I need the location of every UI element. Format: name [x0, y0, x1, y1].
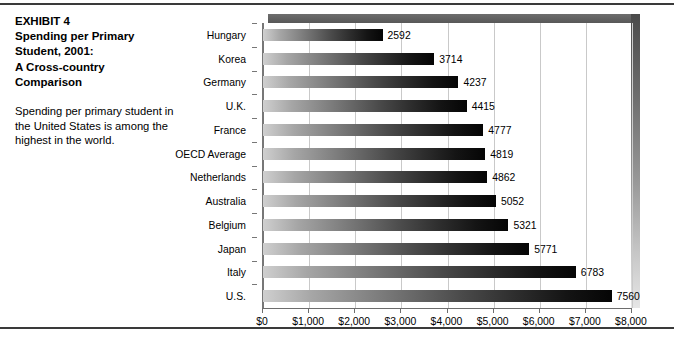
x-tick [354, 308, 355, 313]
bar-netherlands [263, 171, 487, 183]
bar-row: 6783 [263, 266, 631, 278]
plot-area: 2592371442374415477748194862505253215771… [262, 23, 631, 308]
category-tick [252, 213, 257, 214]
bar-belgium [263, 219, 508, 231]
bar-row: 5771 [263, 243, 631, 255]
x-tick-label: $3,000 [384, 316, 416, 327]
x-tick [539, 308, 540, 313]
x-tick [493, 308, 494, 313]
category-label-japan: Japan [218, 243, 246, 254]
bar-chart: HungaryKoreaGermanyU.K.FranceOECD Averag… [200, 14, 662, 320]
exhibit-title-line: Spending per Primary [15, 29, 187, 44]
category-axis: HungaryKoreaGermanyU.K.FranceOECD Averag… [200, 23, 257, 308]
x-tick [631, 308, 632, 313]
exhibit-title-line: Comparison [15, 75, 187, 90]
bar-value-label: 7560 [612, 291, 640, 302]
category-tick [252, 237, 257, 238]
category-tick [252, 94, 257, 95]
bar-u-k- [263, 100, 467, 112]
bar-row: 4777 [263, 124, 631, 136]
category-tick [252, 284, 257, 285]
exhibit-text-panel: EXHIBIT 4 Spending per Primary Student, … [15, 14, 187, 148]
category-label-u-k-: U.K. [226, 101, 246, 112]
gridline-8000 [632, 23, 633, 308]
x-tick [585, 308, 586, 313]
bar-u-s- [263, 290, 612, 302]
bar-value-label: 4819 [485, 148, 513, 159]
bar-value-label: 6783 [576, 267, 604, 278]
bar-value-label: 4777 [483, 124, 511, 135]
exhibit-title-line: Student, 2001: [15, 44, 187, 59]
bar-row: 5321 [263, 219, 631, 231]
bar-value-label: 5771 [529, 243, 557, 254]
category-label-netherlands: Netherlands [190, 172, 246, 183]
bar-italy [263, 266, 576, 278]
x-tick-label: $7,000 [569, 316, 601, 327]
category-tick [252, 71, 257, 72]
x-tick-label: $4,000 [431, 316, 463, 327]
category-tick [252, 261, 257, 262]
category-label-germany: Germany [203, 77, 246, 88]
bar-row: 4819 [263, 148, 631, 160]
bar-value-label: 4862 [487, 172, 515, 183]
category-tick [252, 189, 257, 190]
bar-value-label: 5321 [508, 219, 536, 230]
bar-oecd-average [263, 148, 485, 160]
bar-france [263, 124, 483, 136]
x-tick-label: $6,000 [523, 316, 555, 327]
chart-3d-top-face [268, 14, 637, 23]
exhibit-title-line: EXHIBIT 4 [15, 14, 187, 29]
bar-row: 2592 [263, 29, 631, 41]
bar-hungary [263, 29, 383, 41]
bar-korea [263, 53, 434, 65]
category-tick [252, 166, 257, 167]
bar-australia [263, 195, 496, 207]
bar-row: 3714 [263, 53, 631, 65]
x-tick-label: $5,000 [477, 316, 509, 327]
category-label-belgium: Belgium [208, 219, 246, 230]
page-rule-bottom [0, 327, 674, 329]
category-label-u-s-: U.S. [226, 291, 246, 302]
exhibit-title: EXHIBIT 4 Spending per Primary Student, … [15, 14, 187, 90]
bar-row: 5052 [263, 195, 631, 207]
bar-germany [263, 76, 458, 88]
bar-row: 4415 [263, 100, 631, 112]
category-label-australia: Australia [206, 196, 246, 207]
category-label-hungary: Hungary [207, 29, 246, 40]
x-tick [447, 308, 448, 313]
bar-row: 4862 [263, 171, 631, 183]
category-label-korea: Korea [218, 53, 246, 64]
bar-value-label: 4415 [467, 101, 495, 112]
bar-row: 7560 [263, 290, 631, 302]
page-rule-top [0, 3, 674, 5]
x-tick [308, 308, 309, 313]
x-tick-label: $0 [256, 316, 268, 327]
category-tick [252, 23, 257, 24]
category-label-italy: Italy [227, 267, 246, 278]
category-tick [252, 118, 257, 119]
bar-row: 4237 [263, 76, 631, 88]
category-label-france: France [214, 124, 246, 135]
category-label-oecd-average: OECD Average [175, 148, 246, 159]
x-tick-label: $8,000 [615, 316, 647, 327]
x-tick-label: $1,000 [292, 316, 324, 327]
x-tick-label: $2,000 [338, 316, 370, 327]
bar-value-label: 3714 [434, 53, 462, 64]
x-tick [400, 308, 401, 313]
exhibit-title-line: A Cross-country [15, 60, 187, 75]
exhibit-description: Spending per primary student in the Unit… [15, 104, 187, 148]
category-tick [252, 142, 257, 143]
bar-value-label: 4237 [458, 77, 486, 88]
bar-value-label: 2592 [383, 29, 411, 40]
bar-japan [263, 243, 529, 255]
bar-series: 2592371442374415477748194862505253215771… [263, 23, 631, 308]
x-tick [262, 308, 263, 313]
bar-value-label: 5052 [496, 196, 524, 207]
category-tick [252, 47, 257, 48]
